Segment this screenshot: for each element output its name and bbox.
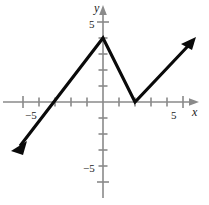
coordinate-plane xyxy=(0,0,209,205)
y-axis-tick-label-neg5: −5 xyxy=(83,163,95,174)
y-axis-label: y xyxy=(94,2,99,14)
x-axis-tick-label-neg5: −5 xyxy=(25,110,37,121)
curve-arrow-end-icon xyxy=(181,37,196,50)
y-axis-arrow-icon xyxy=(99,5,107,15)
x-axis-tick-label-pos5: 5 xyxy=(171,110,177,121)
x-axis-label: x xyxy=(192,106,197,118)
y-axis-tick-label-pos5: 5 xyxy=(89,19,95,30)
curve-arrow-start-icon xyxy=(11,141,27,155)
graph-figure: −5 5 5 −5 x y xyxy=(0,0,209,205)
